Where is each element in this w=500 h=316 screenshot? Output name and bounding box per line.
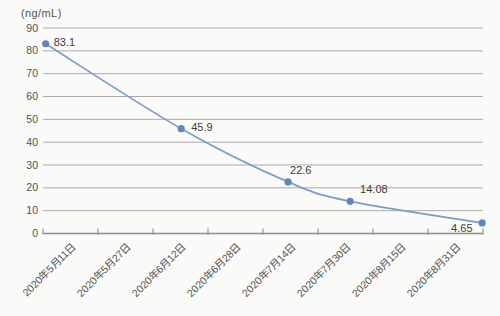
y-tick-label: 0 <box>32 227 38 239</box>
line-chart-canvas: 01020304050607080902020年5月11日2020年5月27日2… <box>0 0 500 316</box>
series-line <box>46 44 483 223</box>
x-category-label: 2020年8月31日 <box>404 240 463 299</box>
x-category-label: 2020年5月11日 <box>20 240 78 298</box>
y-tick-label: 10 <box>26 204 38 216</box>
x-category-label: 2020年7月14日 <box>239 240 298 299</box>
y-tick-label: 90 <box>26 22 38 34</box>
y-tick-label: 20 <box>26 181 38 193</box>
data-point-label: 45.9 <box>191 121 212 133</box>
y-tick-label: 50 <box>26 113 38 125</box>
x-category-label: 2020年6月12日 <box>129 240 188 299</box>
data-point-label: 83.1 <box>54 36 75 48</box>
data-point-marker <box>347 198 354 205</box>
concentration-line-chart: (ng/mL) 01020304050607080902020年5月11日202… <box>0 0 500 316</box>
x-category-label: 2020年7月30日 <box>294 240 353 299</box>
data-point-marker <box>284 178 291 185</box>
data-point-label: 14.08 <box>360 183 388 195</box>
data-point-label: 22.6 <box>290 164 311 176</box>
y-tick-label: 60 <box>26 90 38 102</box>
y-tick-label: 30 <box>26 159 38 171</box>
data-point-label: 4.65 <box>451 222 472 234</box>
data-point-marker <box>178 125 185 132</box>
y-tick-label: 40 <box>26 136 38 148</box>
y-tick-label: 70 <box>26 67 38 79</box>
data-point-marker <box>42 40 49 47</box>
x-category-label: 2020年8月15日 <box>349 240 408 299</box>
x-category-label: 2020年5月27日 <box>74 240 133 299</box>
data-point-marker <box>479 219 486 226</box>
x-category-label: 2020年6月28日 <box>184 240 243 299</box>
y-tick-label: 80 <box>26 44 38 56</box>
